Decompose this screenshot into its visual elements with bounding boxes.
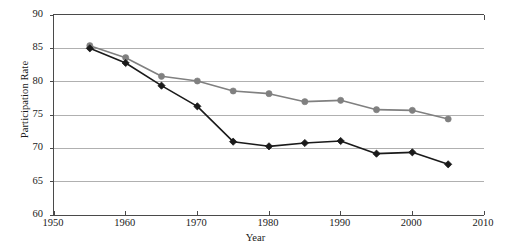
data-point-marker bbox=[265, 143, 272, 150]
x-axis-ticks-group bbox=[54, 211, 484, 215]
data-point-marker bbox=[194, 78, 200, 84]
plot-svg bbox=[54, 15, 484, 215]
plot-area bbox=[53, 14, 484, 215]
series-line-gray-series bbox=[90, 46, 448, 119]
data-point-marker bbox=[230, 88, 236, 94]
y-tick-label: 80 bbox=[9, 75, 43, 86]
data-point-marker bbox=[445, 116, 451, 122]
x-tick-label: 1970 bbox=[171, 218, 221, 229]
data-point-marker bbox=[266, 91, 272, 97]
x-tick-label: 2000 bbox=[386, 218, 436, 229]
y-tick-label: 75 bbox=[9, 109, 43, 120]
data-point-marker bbox=[338, 97, 344, 103]
gridlines-group bbox=[54, 15, 484, 215]
data-point-marker bbox=[373, 150, 380, 157]
top-edge-text-artifact bbox=[30, 0, 490, 4]
y-tick-label: 90 bbox=[9, 9, 43, 20]
data-point-marker bbox=[409, 107, 415, 113]
data-point-marker bbox=[409, 149, 416, 156]
participation-rate-line-chart: Participation Rate 60657075808590 195019… bbox=[0, 0, 511, 252]
y-tick-label: 65 bbox=[9, 175, 43, 186]
y-axis-ticks-group bbox=[50, 15, 54, 215]
x-tick-label: 1990 bbox=[315, 218, 365, 229]
x-axis-title: Year bbox=[0, 232, 511, 243]
y-tick-label: 85 bbox=[9, 42, 43, 53]
data-point-marker bbox=[302, 99, 308, 105]
data-point-marker bbox=[337, 137, 344, 144]
x-tick-label: 1980 bbox=[243, 218, 293, 229]
y-axis-tick-labels: 60657075808590 bbox=[9, 14, 43, 214]
series-markers-group bbox=[86, 43, 452, 168]
x-tick-label: 1950 bbox=[28, 218, 78, 229]
data-point-marker bbox=[373, 107, 379, 113]
data-point-marker bbox=[445, 161, 452, 168]
data-point-marker bbox=[158, 73, 164, 79]
x-tick-label: 2010 bbox=[458, 218, 508, 229]
data-point-marker bbox=[301, 139, 308, 146]
x-tick-label: 1960 bbox=[100, 218, 150, 229]
y-tick-label: 70 bbox=[9, 142, 43, 153]
